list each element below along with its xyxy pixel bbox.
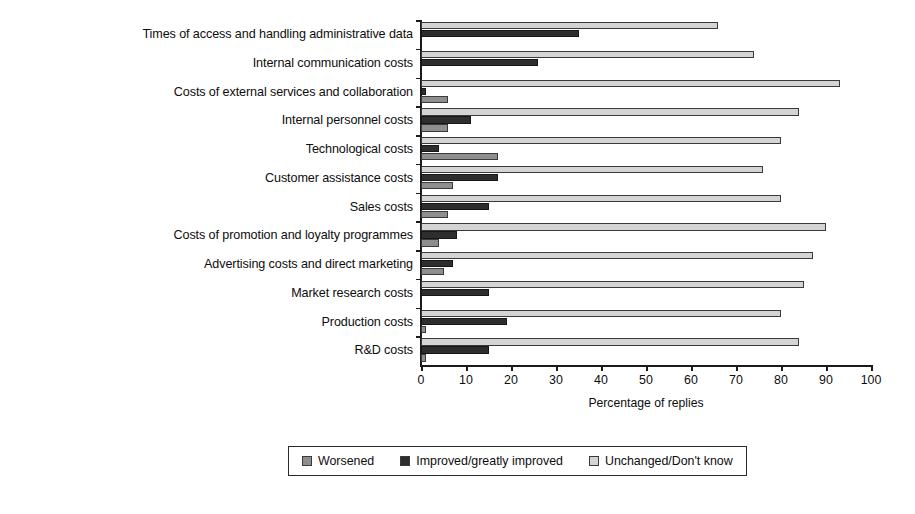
legend-item[interactable]: Worsened	[302, 454, 374, 468]
category-row: Costs of promotion and loyalty programme…	[421, 221, 871, 250]
bar	[421, 124, 448, 131]
bar	[421, 281, 804, 288]
bar	[421, 268, 444, 275]
x-axis-tick	[871, 365, 873, 371]
bar	[421, 223, 826, 230]
x-axis-tick	[781, 365, 783, 371]
bar	[421, 211, 448, 218]
bar	[421, 153, 498, 160]
category-row: Times of access and handling administrat…	[421, 20, 871, 49]
x-axis-tick	[691, 365, 693, 371]
bar-chart: Times of access and handling administrat…	[0, 0, 915, 514]
x-axis-tick-label: 40	[594, 373, 608, 387]
bar	[421, 195, 781, 202]
x-axis-tick-label: 30	[549, 373, 563, 387]
category-row: Customer assistance costs	[421, 164, 871, 193]
bar	[421, 108, 799, 115]
bar	[421, 231, 457, 238]
legend-swatch-icon	[302, 456, 312, 466]
bar	[421, 203, 489, 210]
category-row: Internal communication costs	[421, 49, 871, 78]
x-axis-tick-label: 70	[729, 373, 743, 387]
x-axis-tick	[466, 365, 468, 371]
bar	[421, 96, 448, 103]
bar	[421, 289, 489, 296]
category-label: Market research costs	[291, 279, 413, 308]
bar	[421, 252, 813, 259]
category-label: Costs of promotion and loyalty programme…	[174, 221, 414, 250]
bar	[421, 137, 781, 144]
bar	[421, 145, 439, 152]
bar	[421, 88, 426, 95]
category-label: Advertising costs and direct marketing	[204, 250, 413, 279]
category-row: Market research costs	[421, 279, 871, 308]
legend-label: Improved/greatly improved	[416, 454, 563, 468]
category-label: Costs of external services and collabora…	[174, 78, 413, 107]
legend-swatch-icon	[400, 456, 410, 466]
x-axis-title: Percentage of replies	[421, 396, 871, 410]
category-label: Production costs	[321, 308, 413, 337]
category-row: Internal personnel costs	[421, 106, 871, 135]
bar	[421, 346, 489, 353]
x-axis-tick	[736, 365, 738, 371]
category-label: Internal communication costs	[253, 49, 413, 78]
bar	[421, 354, 426, 361]
legend-label: Worsened	[318, 454, 374, 468]
x-axis-tick-label: 80	[774, 373, 788, 387]
x-axis-tick-label: 20	[504, 373, 518, 387]
bar	[421, 260, 453, 267]
x-axis-tick	[601, 365, 603, 371]
category-label: Customer assistance costs	[265, 164, 413, 193]
category-row: Technological costs	[421, 135, 871, 164]
legend-label: Unchanged/Don't know	[605, 454, 733, 468]
bar	[421, 239, 439, 246]
legend-item[interactable]: Unchanged/Don't know	[589, 454, 733, 468]
bar	[421, 310, 781, 317]
bar	[421, 326, 426, 333]
bar	[421, 116, 471, 123]
x-axis-tick	[556, 365, 558, 371]
bar	[421, 174, 498, 181]
x-axis-tick-label: 0	[418, 373, 425, 387]
legend-swatch-icon	[589, 456, 599, 466]
category-label: Times of access and handling administrat…	[142, 20, 413, 49]
x-axis-tick-label: 10	[459, 373, 473, 387]
bar	[421, 338, 799, 345]
x-axis-tick	[646, 365, 648, 371]
category-label: Internal personnel costs	[282, 106, 413, 135]
bar	[421, 30, 579, 37]
chart-legend: WorsenedImproved/greatly improvedUnchang…	[288, 446, 747, 476]
legend-item[interactable]: Improved/greatly improved	[400, 454, 563, 468]
bar	[421, 59, 538, 66]
x-axis-tick-label: 100	[861, 373, 882, 387]
bar	[421, 80, 840, 87]
bar	[421, 166, 763, 173]
category-label: R&D costs	[354, 336, 413, 365]
category-row: Production costs	[421, 308, 871, 337]
category-row: Sales costs	[421, 193, 871, 222]
x-axis-tick	[421, 365, 423, 371]
bar	[421, 51, 754, 58]
bar	[421, 22, 718, 29]
x-axis-tick-label: 50	[639, 373, 653, 387]
bar	[421, 182, 453, 189]
x-axis-tick-label: 90	[819, 373, 833, 387]
category-row: R&D costs	[421, 336, 871, 365]
x-axis-tick	[511, 365, 513, 371]
category-row: Advertising costs and direct marketing	[421, 250, 871, 279]
category-label: Sales costs	[350, 193, 413, 222]
x-axis-tick-label: 60	[684, 373, 698, 387]
plot-area: Times of access and handling administrat…	[421, 20, 871, 365]
bar	[421, 318, 507, 325]
x-axis-tick	[826, 365, 828, 371]
category-row: Costs of external services and collabora…	[421, 78, 871, 107]
category-label: Technological costs	[306, 135, 413, 164]
